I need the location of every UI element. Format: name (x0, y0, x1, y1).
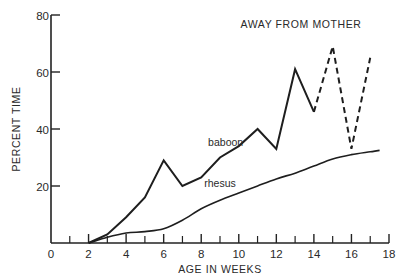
x-tick-label: 8 (198, 248, 204, 260)
y-tick-label: 20 (36, 181, 49, 193)
x-tick-label: 12 (270, 248, 283, 260)
y-tick-label: 80 (36, 10, 49, 22)
x-tick-label: 4 (123, 248, 130, 260)
series-baboon: baboon (89, 46, 371, 243)
x-tick-label: 18 (383, 248, 396, 260)
y-tick-label: 40 (36, 124, 49, 136)
rhesus-label: rhesus (204, 177, 236, 189)
x-tick-label: 16 (345, 248, 358, 260)
line-chart: AWAY FROM MOTHER 20406080 02468101214161… (0, 0, 403, 280)
x-tick-label: 10 (232, 248, 245, 260)
x-tick-label: 2 (85, 248, 91, 260)
y-axis: 20406080 (36, 10, 60, 244)
rhesus-line (89, 150, 380, 243)
y-axis-title: PERCENT TIME (10, 87, 22, 172)
baboon-line-dashed (314, 46, 370, 149)
x-tick-label: 14 (307, 248, 320, 260)
x-tick-label: 0 (48, 248, 54, 260)
baboon-line-solid (89, 69, 314, 243)
series-rhesus: rhesus (89, 150, 380, 243)
chart-title: AWAY FROM MOTHER (240, 18, 361, 30)
x-tick-label: 6 (160, 248, 166, 260)
x-axis-title: AGE IN WEEKS (178, 263, 262, 275)
y-tick-label: 60 (36, 67, 49, 79)
baboon-label: baboon (208, 136, 243, 148)
